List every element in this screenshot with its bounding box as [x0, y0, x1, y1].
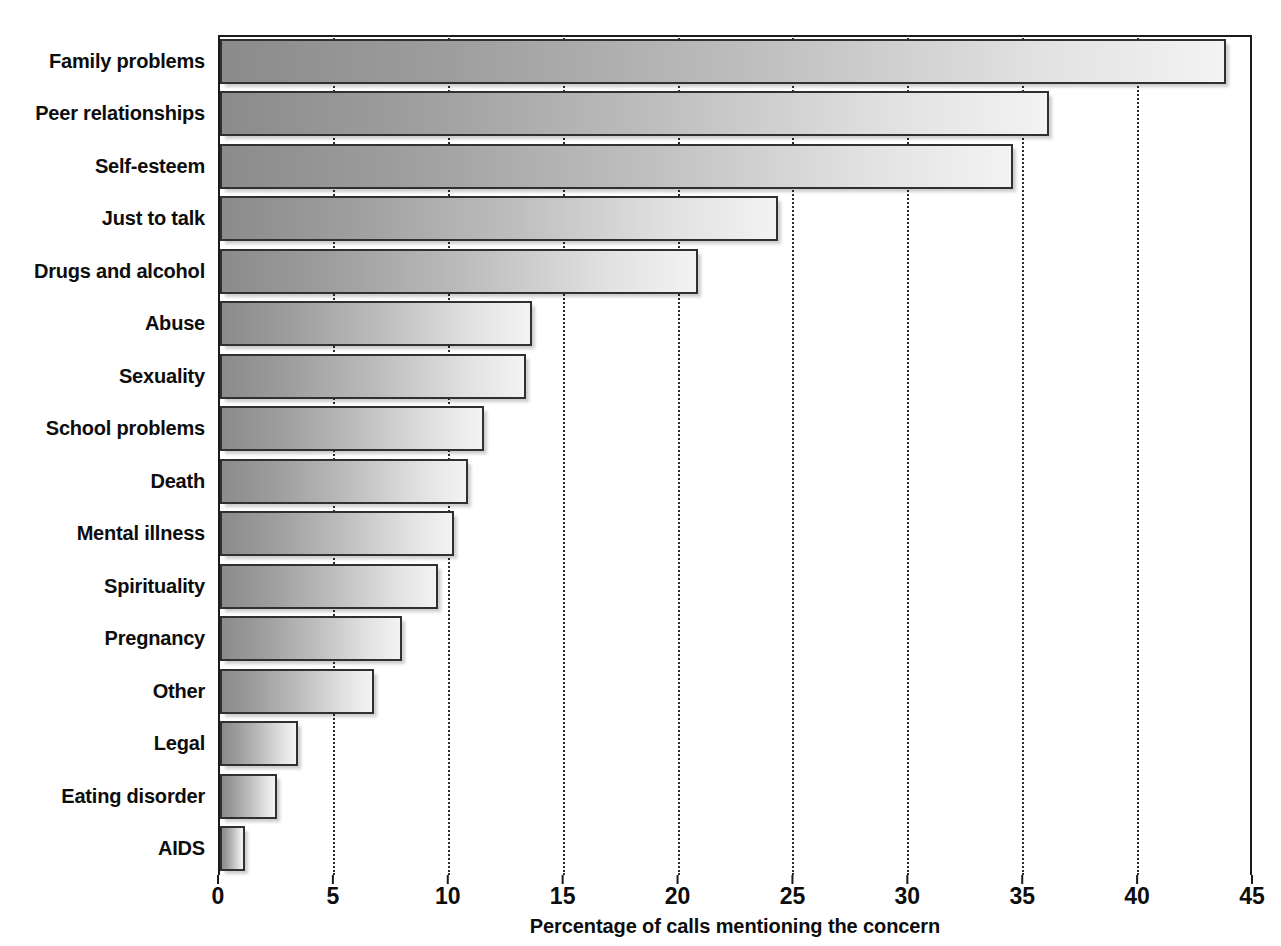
bar [220, 774, 277, 819]
tick-marks [216, 875, 1256, 887]
bar [220, 249, 698, 294]
y-axis-label: Family problems [0, 39, 205, 84]
y-axis-label: Eating disorder [0, 774, 205, 819]
bar [220, 616, 402, 661]
y-axis-label: School problems [0, 406, 205, 451]
y-axis-label: Peer relationships [0, 91, 205, 136]
bar [220, 91, 1049, 136]
bar-chart: Family problemsPeer relationshipsSelf-es… [0, 0, 1281, 946]
bar [220, 669, 374, 714]
y-axis-label: AIDS [0, 826, 205, 871]
bar [220, 721, 298, 766]
bar [220, 564, 438, 609]
x-tick-label: 35 [1009, 883, 1035, 910]
y-axis-label: Spirituality [0, 564, 205, 609]
bar [220, 406, 484, 451]
bar [220, 511, 454, 556]
y-axis-label: Self-esteem [0, 144, 205, 189]
bar [220, 144, 1013, 189]
x-tick-label: 25 [780, 883, 806, 910]
x-tick-label: 40 [1124, 883, 1150, 910]
y-axis-label: Abuse [0, 301, 205, 346]
x-tick-label: 5 [326, 883, 339, 910]
y-axis-label: Mental illness [0, 511, 205, 556]
x-axis-title: Percentage of calls mentioning the conce… [218, 915, 1252, 938]
x-tick-label: 0 [212, 883, 225, 910]
bar-series [220, 35, 1252, 875]
bar [220, 196, 778, 241]
x-tick-label: 45 [1239, 883, 1265, 910]
bar [220, 459, 468, 504]
y-axis-label: Sexuality [0, 354, 205, 399]
x-tick-label: 30 [895, 883, 921, 910]
y-axis-label: Pregnancy [0, 616, 205, 661]
y-axis-label: Legal [0, 721, 205, 766]
bar [220, 826, 245, 871]
y-axis-label: Death [0, 459, 205, 504]
y-axis-label: Other [0, 669, 205, 714]
y-axis-label: Drugs and alcohol [0, 249, 205, 294]
x-tick-label: 15 [550, 883, 576, 910]
y-axis-label: Just to talk [0, 196, 205, 241]
x-tick-label: 10 [435, 883, 461, 910]
cropped-title-sliver [300, 0, 720, 7]
bar [220, 301, 532, 346]
x-tick-label: 20 [665, 883, 691, 910]
bar [220, 354, 526, 399]
y-axis-category-labels: Family problemsPeer relationshipsSelf-es… [0, 35, 205, 875]
bar [220, 39, 1226, 84]
